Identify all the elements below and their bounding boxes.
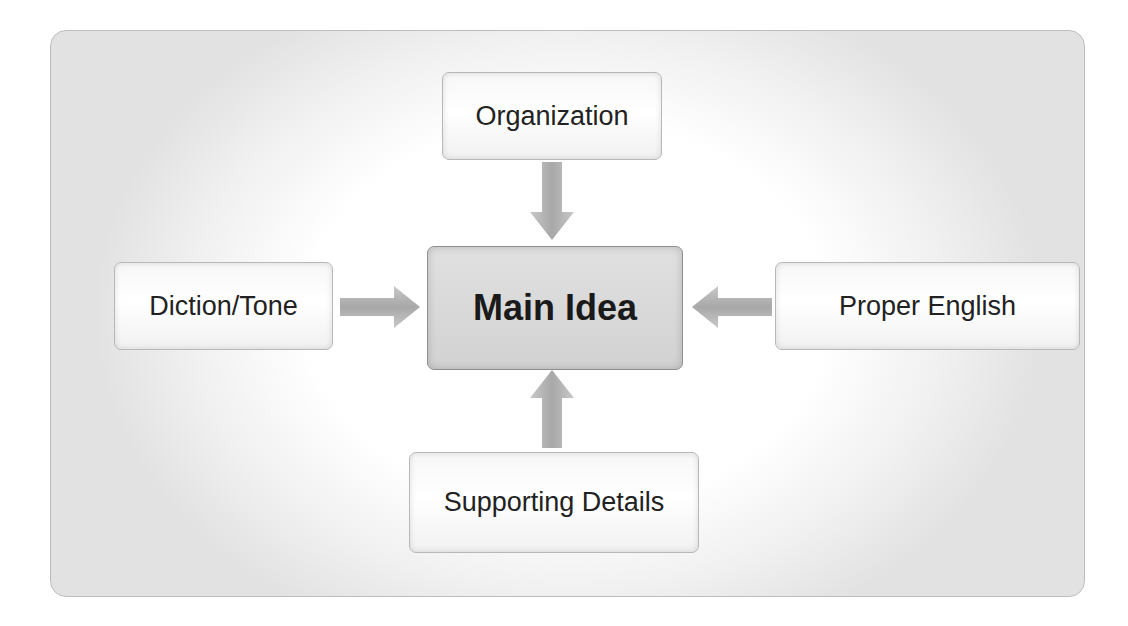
node-label: Main Idea	[473, 287, 637, 329]
node-label: Diction/Tone	[149, 291, 298, 322]
node-diction-tone: Diction/Tone	[114, 262, 333, 350]
arrow-up-icon	[529, 370, 575, 448]
node-proper-english: Proper English	[775, 262, 1080, 350]
node-main-idea: Main Idea	[427, 246, 683, 370]
node-label: Organization	[475, 101, 628, 132]
node-organization: Organization	[442, 72, 662, 160]
arrow-down-icon	[529, 162, 575, 242]
arrow-right-icon	[340, 284, 422, 330]
node-label: Proper English	[839, 291, 1016, 322]
arrow-left-icon	[690, 284, 772, 330]
node-supporting-details: Supporting Details	[409, 452, 699, 553]
node-label: Supporting Details	[444, 487, 665, 518]
